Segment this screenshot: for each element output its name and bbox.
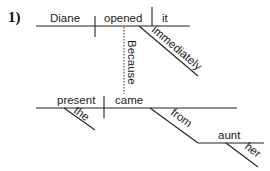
- diagram-number: 1): [8, 9, 21, 26]
- aunt-word: aunt: [218, 129, 241, 141]
- sub-verb-word: came: [115, 94, 143, 106]
- sub-subject-word: present: [57, 94, 96, 106]
- subject-word: Diane: [50, 12, 80, 24]
- sentence-diagram: 1) Diane opened it immediately Because p…: [0, 0, 270, 171]
- diagram-canvas: 1) Diane opened it immediately Because p…: [0, 0, 270, 171]
- verb-word: opened: [104, 12, 142, 24]
- the-word: the: [72, 104, 92, 123]
- from-word: from: [169, 106, 195, 129]
- because-word: Because: [126, 40, 138, 85]
- immediately-word: immediately: [150, 23, 205, 72]
- object-word: it: [162, 12, 169, 24]
